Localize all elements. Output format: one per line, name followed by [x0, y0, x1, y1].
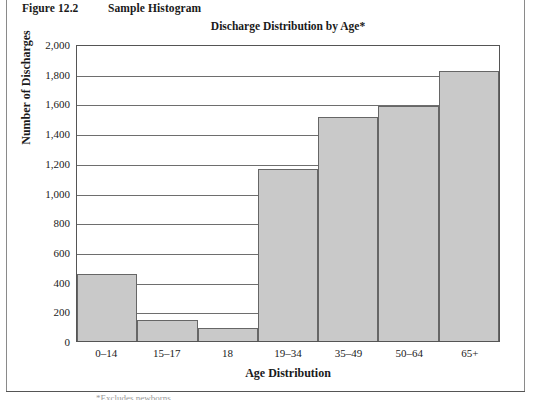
chart-title: Discharge Distribution by Age*: [0, 20, 534, 32]
bar: [77, 274, 137, 341]
bar: [318, 117, 378, 341]
x-axis-tick-label: 19–34: [258, 347, 319, 359]
x-axis-tick-label: 18: [197, 347, 258, 359]
figure-number: Figure 12.2: [22, 2, 108, 14]
x-axis-tick-label: 0–14: [76, 347, 137, 359]
figure-caption: Figure 12.2Sample Histogram: [22, 2, 201, 14]
bar-series: [77, 46, 499, 341]
figure-page: Figure 12.2Sample Histogram Discharge Di…: [0, 0, 534, 400]
figure-caption-text: Sample Histogram: [108, 2, 201, 14]
x-axis-tick-label: 50–64: [379, 347, 440, 359]
y-axis-tick-label: 0: [10, 337, 70, 348]
page-border-bottom: [6, 391, 525, 392]
x-axis-tick-label: 35–49: [318, 347, 379, 359]
y-axis-tick-label: 600: [10, 248, 70, 259]
bar: [258, 169, 318, 341]
bar: [137, 320, 197, 341]
bar: [439, 71, 499, 341]
x-axis-tick-label: 65+: [439, 347, 500, 359]
y-axis-tick-label: 400: [10, 278, 70, 289]
plot-area: [76, 45, 500, 342]
bar: [198, 328, 258, 341]
x-axis-title: Age Distribution: [76, 366, 500, 381]
y-axis-tick-label: 1,000: [10, 189, 70, 200]
x-axis-tick-labels: 0–1415–171819–3435–4950–6465+: [76, 347, 500, 359]
figure-footnote: *Excludes newborns.: [96, 393, 173, 400]
y-axis-tick-label: 200: [10, 307, 70, 318]
x-axis-tick-label: 15–17: [137, 347, 198, 359]
bar: [378, 106, 438, 341]
y-axis-tick-labels: 2,0001,8001,6001,4001,2001,0008006004002…: [8, 45, 70, 342]
page-border-left: [6, 0, 7, 392]
y-axis-tick-label: 800: [10, 218, 70, 229]
y-axis-title: Number of Discharges: [19, 0, 34, 183]
page-border-right: [524, 0, 525, 392]
